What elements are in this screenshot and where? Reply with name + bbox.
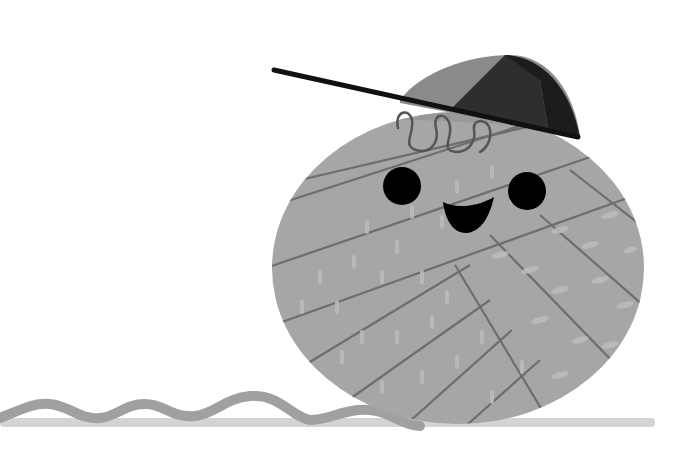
yarn-ball-character — [0, 0, 690, 453]
right-eye — [508, 172, 546, 210]
left-eye — [383, 167, 421, 205]
illustration — [0, 0, 690, 453]
